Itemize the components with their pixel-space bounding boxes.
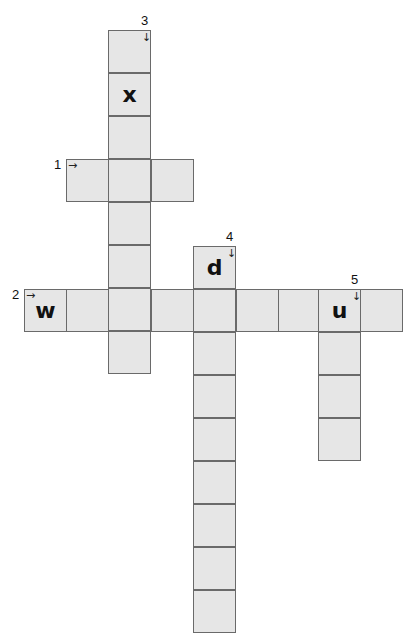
clue-number-5: 5: [351, 272, 358, 287]
crossword-cell[interactable]: [66, 289, 109, 332]
arrow-down-icon: ↓: [142, 32, 151, 43]
clue-number-2: 2: [12, 287, 19, 302]
crossword-cell[interactable]: [108, 159, 151, 202]
crossword-cell[interactable]: [193, 289, 236, 332]
crossword-cell[interactable]: [360, 289, 403, 332]
crossword-cell[interactable]: [108, 331, 151, 374]
crossword-cell[interactable]: [193, 418, 236, 461]
crossword-cell[interactable]: [193, 375, 236, 418]
crossword-cell[interactable]: [193, 590, 236, 633]
clue-number-1: 1: [54, 157, 61, 172]
crossword-cell[interactable]: [318, 375, 361, 418]
clue-number-4: 4: [226, 229, 233, 244]
crossword-cell[interactable]: x: [108, 73, 151, 116]
crossword-cell[interactable]: [193, 461, 236, 504]
crossword-cell[interactable]: [108, 116, 151, 159]
arrow-right-icon: →: [26, 290, 35, 301]
crossword-cell[interactable]: [108, 202, 151, 245]
crossword-cell[interactable]: [278, 289, 321, 332]
crossword-cell[interactable]: [108, 288, 151, 331]
arrow-down-icon: ↓: [227, 248, 236, 259]
crossword-cell[interactable]: [318, 332, 361, 375]
crossword-cell[interactable]: [193, 504, 236, 547]
crossword-cell[interactable]: [318, 418, 361, 461]
arrow-down-icon: ↓: [352, 291, 361, 302]
crossword-cell[interactable]: [193, 332, 236, 375]
crossword-cell[interactable]: [193, 547, 236, 590]
crossword-cell[interactable]: [108, 245, 151, 288]
crossword-cell[interactable]: [236, 289, 279, 332]
clue-number-3: 3: [141, 13, 148, 28]
crossword-cell[interactable]: [151, 289, 194, 332]
crossword-cell[interactable]: [151, 159, 194, 202]
arrow-right-icon: →: [68, 160, 77, 171]
